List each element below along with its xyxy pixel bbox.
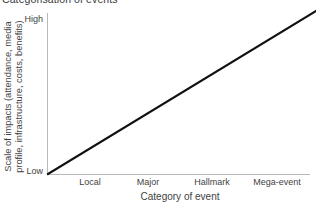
series-line-scale-of-impacts [48, 11, 316, 174]
x-axis-tick-major: Major [137, 177, 160, 187]
chart-title: Categorisation of events [2, 0, 118, 5]
y-axis-line [47, 13, 48, 175]
chart-figure: Categorisation of events High Low Scale … [0, 0, 316, 206]
x-axis-tick-local: Local [79, 177, 101, 187]
y-axis-title-line-1: Scale of impacts (attendance, media [3, 17, 14, 177]
x-axis-tick-mega-event: Mega-event [253, 177, 301, 187]
x-axis-tick-hallmark: Hallmark [194, 177, 230, 187]
x-axis-line [47, 174, 310, 175]
x-axis-title-text: Category of event [141, 191, 220, 202]
x-axis-title: Category of event [0, 191, 316, 202]
y-axis-title-line-2: profile, infrastructure, costs, benefits… [14, 17, 25, 177]
y-axis-title: Scale of impacts (attendance, media prof… [3, 17, 24, 177]
